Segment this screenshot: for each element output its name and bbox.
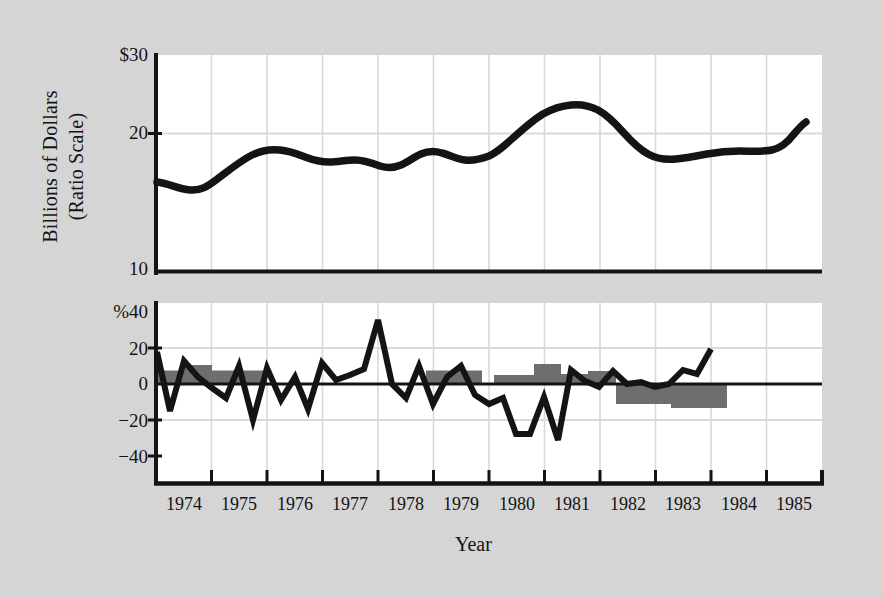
year-label-1976: 1976 (267, 494, 323, 515)
chart-figure: Billions of Dollars (Ratio Scale) $30 20… (0, 0, 882, 598)
bar-1980-b (534, 364, 561, 384)
year-label-1983: 1983 (655, 494, 711, 515)
year-label-1974: 1974 (156, 494, 212, 515)
year-label-1984: 1984 (711, 494, 767, 515)
bar-1983-h1 (671, 384, 699, 408)
year-label-1978: 1978 (378, 494, 434, 515)
year-label-1979: 1979 (433, 494, 489, 515)
year-label-1975: 1975 (211, 494, 267, 515)
year-label-1980: 1980 (489, 494, 545, 515)
year-label-1985: 1985 (766, 494, 822, 515)
year-label-1982: 1982 (600, 494, 656, 515)
x-axis-title: Year (455, 533, 492, 556)
bar-1983-h2 (699, 384, 727, 408)
year-label-1977: 1977 (322, 494, 378, 515)
year-label-1981: 1981 (544, 494, 600, 515)
